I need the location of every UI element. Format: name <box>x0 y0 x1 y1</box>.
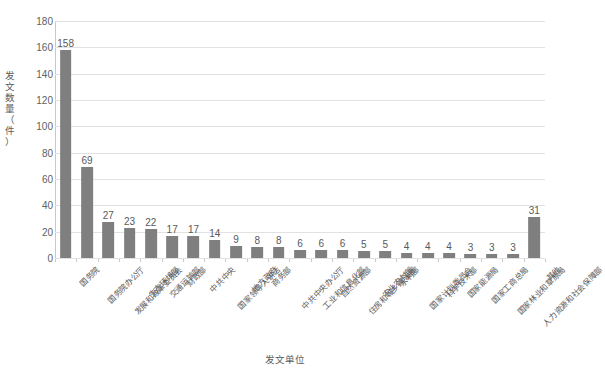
bar-slot: 3 <box>460 22 481 259</box>
x-tick-mark <box>55 259 56 262</box>
x-tick-mark <box>524 259 525 262</box>
bar[interactable] <box>465 254 477 258</box>
bar-value-label: 27 <box>103 210 114 221</box>
bar[interactable] <box>102 222 114 258</box>
bar-value-label: 31 <box>529 205 540 216</box>
x-tick-mark <box>76 259 77 262</box>
bar-value-label: 8 <box>276 235 282 246</box>
x-tick-mark <box>481 259 482 262</box>
x-tick-mark <box>140 259 141 262</box>
bar[interactable] <box>337 250 349 258</box>
bar-slot: 8 <box>268 22 289 259</box>
bar[interactable] <box>422 253 434 258</box>
bar-value-label: 9 <box>233 234 239 245</box>
x-tick-mark <box>396 259 397 262</box>
x-tick-mark <box>332 259 333 262</box>
y-tick-label: 40 <box>19 201 53 211</box>
bar-slot: 3 <box>502 22 523 259</box>
bar[interactable] <box>145 229 157 258</box>
bar-value-label: 5 <box>361 239 367 250</box>
y-tick-label: 120 <box>19 96 53 106</box>
bar[interactable] <box>230 246 242 258</box>
x-tick-mark <box>98 259 99 262</box>
x-tick-mark <box>204 259 205 262</box>
bar-slot: 14 <box>204 22 225 259</box>
bar[interactable] <box>124 228 136 258</box>
x-tick-label: 国务院 <box>78 265 101 288</box>
bar-value-label: 4 <box>404 241 410 252</box>
bar-slot: 4 <box>438 22 459 259</box>
bar-slot: 17 <box>162 22 183 259</box>
bar-slot: 17 <box>183 22 204 259</box>
x-tick-mark <box>417 259 418 262</box>
bar[interactable] <box>273 247 285 258</box>
x-tick-mark <box>225 259 226 262</box>
bar-slot: 6 <box>332 22 353 259</box>
x-tick-mark <box>502 259 503 262</box>
y-tick-label: 60 <box>19 175 53 185</box>
bar-value-label: 6 <box>340 238 346 249</box>
bar-value-label: 8 <box>255 235 261 246</box>
bar-slot: 6 <box>289 22 310 259</box>
bar[interactable] <box>81 167 93 258</box>
y-axis-ticks: 020406080100120140160180 <box>13 22 53 259</box>
bar-value-label: 4 <box>425 241 431 252</box>
bar-value-label: 4 <box>446 241 452 252</box>
bar-value-label: 6 <box>319 238 325 249</box>
bar-value-label: 23 <box>124 216 135 227</box>
bar[interactable] <box>252 247 264 258</box>
bar-slot: 158 <box>55 22 76 259</box>
y-tick-label: 20 <box>19 228 53 238</box>
bar-slot: 4 <box>396 22 417 259</box>
x-axis-title: 发文单位 <box>0 352 569 366</box>
bar[interactable] <box>401 253 413 258</box>
bar[interactable] <box>358 251 370 258</box>
bar-slot: 22 <box>140 22 161 259</box>
bar[interactable] <box>528 217 540 258</box>
x-tick-mark <box>268 259 269 262</box>
bar-value-label: 17 <box>167 224 178 235</box>
bar-slot: 8 <box>247 22 268 259</box>
bar[interactable] <box>379 251 391 258</box>
x-tick-label: 中共中央 <box>208 265 237 294</box>
bar-value-label: 6 <box>297 238 303 249</box>
bar-slot: 69 <box>76 22 97 259</box>
bar-slot: 31 <box>524 22 545 259</box>
x-tick-mark <box>545 259 546 262</box>
bar-value-label: 158 <box>57 38 74 49</box>
bar[interactable] <box>443 253 455 258</box>
x-tick-mark <box>289 259 290 262</box>
bar[interactable] <box>60 50 72 258</box>
bar-slot: 23 <box>119 22 140 259</box>
bar[interactable] <box>209 240 221 258</box>
bars-layer: 158692723221717149886665544433331 <box>55 22 545 259</box>
bar-value-label: 69 <box>81 155 92 166</box>
x-tick-mark <box>375 259 376 262</box>
bar[interactable] <box>315 250 327 258</box>
plot-area: 158692723221717149886665544433331 <box>55 22 545 259</box>
y-tick-label: 160 <box>19 43 53 53</box>
bar[interactable] <box>486 254 498 258</box>
x-tick-mark <box>438 259 439 262</box>
bar-value-label: 3 <box>489 242 495 253</box>
y-tick-label: 80 <box>19 149 53 159</box>
bar-slot: 5 <box>375 22 396 259</box>
bar-slot: 27 <box>98 22 119 259</box>
bar-slot: 9 <box>225 22 246 259</box>
y-tick-label: 140 <box>19 70 53 80</box>
y-tick-label: 100 <box>19 122 53 132</box>
x-tick-mark <box>353 259 354 262</box>
bar-slot: 3 <box>481 22 502 259</box>
bar-slot: 5 <box>353 22 374 259</box>
bar[interactable] <box>507 254 519 258</box>
y-tick-label: 180 <box>19 17 53 27</box>
x-tick-mark <box>183 259 184 262</box>
bar[interactable] <box>166 236 178 258</box>
bar-value-label: 5 <box>382 239 388 250</box>
x-tick-mark <box>311 259 312 262</box>
bar-value-label: 3 <box>510 242 516 253</box>
bar[interactable] <box>188 236 200 258</box>
bar[interactable] <box>294 250 306 258</box>
x-tick-mark <box>247 259 248 262</box>
